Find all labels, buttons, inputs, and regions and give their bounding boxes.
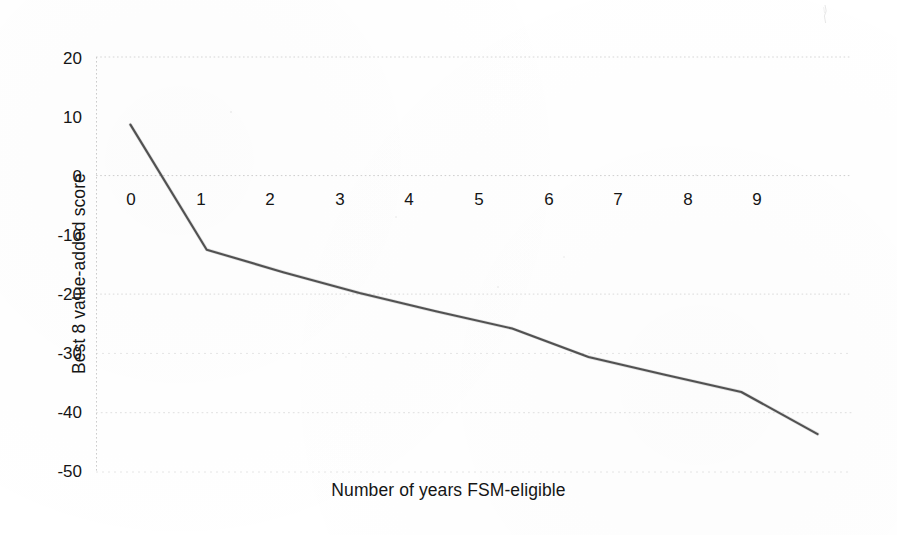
data-series-line	[130, 125, 817, 435]
chart-canvas	[96, 57, 852, 472]
scan-speckles	[230, 111, 697, 358]
scan-artifact-icon	[819, 4, 831, 26]
y-tick-label-neg20: -20	[20, 286, 82, 303]
y-tick-label-10: 10	[20, 109, 82, 126]
y-tick-label-neg10: -10	[20, 227, 82, 244]
gridlines	[96, 57, 852, 472]
x-axis-title: Number of years FSM-eligible	[0, 480, 897, 501]
y-tick-label-0: 0	[20, 168, 82, 185]
y-tick-label-neg30: -30	[20, 345, 82, 362]
y-tick-label-neg40: -40	[20, 404, 82, 421]
plot-area	[96, 57, 852, 472]
y-tick-label-20: 20	[20, 50, 82, 67]
chart-figure: Best 8 value-added score 20 10 0 -10 -20…	[0, 0, 897, 535]
y-tick-label-neg50: -50	[20, 463, 82, 480]
